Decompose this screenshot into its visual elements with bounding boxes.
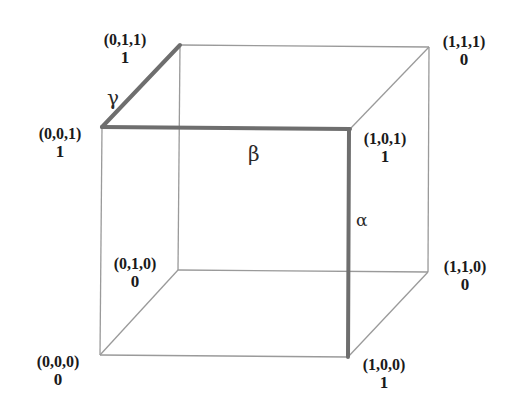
edge-label-alpha: α bbox=[356, 210, 367, 230]
vertex-coord: (1,0,0) bbox=[352, 356, 416, 374]
vertex-label-001: (0,0,1) 1 bbox=[28, 125, 92, 161]
edge-010-110 bbox=[178, 270, 428, 272]
vertex-value: 1 bbox=[353, 148, 417, 167]
edge-111-110 bbox=[428, 47, 429, 272]
edge-110-100 bbox=[348, 272, 428, 357]
vertex-value: 0 bbox=[433, 276, 497, 295]
vertex-value: 1 bbox=[28, 143, 92, 162]
edge-011-111 bbox=[180, 45, 429, 47]
vertex-label-111: (1,1,1) 0 bbox=[432, 33, 496, 69]
vertex-label-000: (0,0,0) 0 bbox=[26, 353, 90, 389]
vertex-value: 0 bbox=[432, 51, 496, 70]
vertex-coord: (0,1,0) bbox=[103, 255, 167, 273]
vertex-label-100: (1,0,0) 1 bbox=[352, 356, 416, 392]
vertex-coord: (0,0,0) bbox=[26, 353, 90, 371]
edge-label-gamma: γ bbox=[107, 86, 119, 110]
vertex-label-110: (1,1,0) 0 bbox=[433, 258, 497, 294]
vertex-value: 0 bbox=[26, 371, 90, 390]
vertex-coord: (1,0,1) bbox=[353, 130, 417, 148]
vertex-value: 1 bbox=[95, 49, 155, 68]
edge-011-010 bbox=[178, 45, 180, 270]
vertex-coord: (1,1,1) bbox=[432, 33, 496, 51]
vertex-value: 0 bbox=[103, 273, 167, 292]
edge-label-beta: β bbox=[248, 142, 260, 166]
edge-111-101 bbox=[350, 47, 429, 129]
edge-beta bbox=[102, 127, 350, 129]
vertex-label-010: (0,1,0) 0 bbox=[103, 255, 167, 291]
cube-diagram: (0,1,1) 1 (1,1,1) 0 (0,0,1) 1 (1,0,1) 1 … bbox=[0, 0, 526, 418]
edge-000-100 bbox=[100, 355, 348, 357]
vertex-value: 1 bbox=[352, 374, 416, 393]
vertex-label-101: (1,0,1) 1 bbox=[353, 130, 417, 166]
vertex-coord: (1,1,0) bbox=[433, 258, 497, 276]
vertex-coord: (0,0,1) bbox=[28, 125, 92, 143]
vertex-label-011: (0,1,1) 1 bbox=[95, 31, 155, 67]
vertex-coord: (0,1,1) bbox=[95, 31, 155, 49]
edge-001-000 bbox=[100, 127, 102, 355]
edge-alpha bbox=[348, 129, 349, 357]
